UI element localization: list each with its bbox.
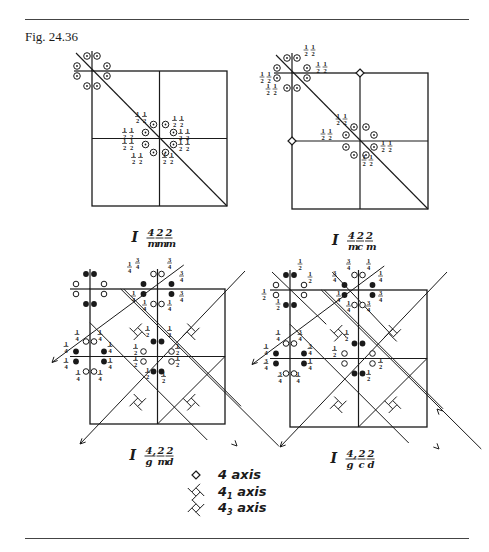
screw-diamond: [192, 504, 200, 512]
circle-center-dot: [153, 124, 155, 126]
fraction-denominator: 2: [276, 304, 279, 311]
height-fraction: 12: [273, 82, 278, 96]
lattice-letter: I: [131, 229, 139, 245]
equipoint-circle-dot: [294, 55, 301, 62]
fraction-numerator: 1: [323, 60, 326, 67]
space-group-symbol: I4m2c2m: [331, 230, 377, 252]
equipoint-open-circle: [159, 271, 165, 277]
fraction-denominator: 4: [180, 296, 184, 303]
equipoint-open-circle: [91, 369, 97, 375]
screw-tail: [330, 329, 334, 333]
fraction-numerator: 1: [321, 127, 324, 134]
height-fraction: 12: [138, 151, 143, 165]
fraction-denominator: 2: [134, 361, 137, 368]
screw-diamond: [134, 398, 142, 406]
equipoint-open-circle: [159, 301, 165, 307]
circle-center-dot: [86, 85, 88, 87]
fraction-denominator: 2: [273, 89, 276, 96]
fraction-denominator: 4: [296, 377, 300, 384]
circle-center-dot: [353, 154, 355, 156]
fraction-numerator: 1: [369, 153, 372, 160]
fraction-numerator: 1: [136, 110, 139, 117]
screw-tail: [385, 333, 389, 337]
lattice-letter: I: [331, 232, 339, 248]
fraction-numerator: 1: [134, 354, 137, 361]
fraction-denominator: 4: [347, 306, 351, 313]
height-fraction: 12: [336, 112, 341, 126]
fraction-numerator: 1: [64, 340, 67, 347]
height-fraction: 14: [346, 299, 351, 313]
height-fraction: 12: [179, 114, 184, 128]
screw-tail: [191, 394, 195, 398]
diagonal-glide-line: [280, 272, 447, 447]
circle-center-dot: [365, 126, 367, 128]
equipoint-open-circle: [370, 361, 376, 367]
diagonal-mirror-line: [276, 55, 428, 209]
fraction-numerator: 1: [316, 60, 319, 67]
fraction-numerator: 1: [260, 70, 263, 77]
equipoint-open-circle: [352, 272, 358, 278]
fraction-denominator: 4: [308, 349, 312, 356]
circle-center-dot: [306, 67, 308, 69]
diagonal-glide-line: [121, 289, 279, 446]
fraction-denominator: 2: [388, 146, 391, 153]
screw-diamond: [334, 401, 342, 409]
fraction-numerator: 1: [176, 354, 179, 361]
fraction-numerator: 1: [343, 112, 346, 119]
height-fraction: 14: [142, 298, 147, 312]
equipoint-circle-dot: [84, 83, 91, 90]
screw-tail: [192, 500, 196, 504]
equipoint-filled-circle: [101, 349, 107, 355]
fraction-denominator: 4: [264, 364, 268, 371]
equipoint-circle-dot: [351, 152, 358, 159]
circle-center-dot: [373, 134, 375, 136]
fraction-denominator: 4: [108, 363, 112, 370]
fraction-numerator: 1: [347, 299, 350, 306]
symbol-denominator: g: [146, 456, 153, 467]
height-fraction: 12: [135, 110, 140, 124]
symbol-denominator: c: [357, 241, 363, 252]
screw-tail: [385, 401, 389, 405]
fraction-numerator: 1: [333, 344, 336, 351]
height-fraction: 14: [108, 356, 113, 370]
equipoint-open-circle: [83, 369, 89, 375]
fraction-denominator: 4: [333, 276, 337, 283]
fraction-denominator: 2: [311, 50, 314, 57]
equipoint-open-circle: [101, 281, 107, 287]
four-fold-screw-3-icon: [385, 325, 401, 341]
fraction-denominator: 2: [381, 146, 384, 153]
fraction-denominator: 2: [304, 50, 307, 57]
height-fraction: 12: [175, 354, 180, 368]
fraction-numerator: 1: [98, 368, 101, 375]
height-fraction: 12: [142, 110, 147, 124]
circle-center-dot: [286, 87, 288, 89]
fraction-numerator: 1: [298, 257, 301, 264]
screw-tail: [393, 337, 397, 341]
fraction-denominator: 2: [369, 160, 372, 167]
equipoint-open-circle: [283, 371, 289, 377]
equipoint-circle-dot: [304, 75, 311, 82]
circle-center-dot: [153, 152, 155, 154]
fraction-numerator: 1: [276, 297, 279, 304]
equipoint-open-circle: [169, 349, 175, 355]
fraction-numerator: 1: [123, 137, 126, 144]
equipoint-filled-circle: [283, 272, 289, 278]
circle-center-dot: [345, 134, 347, 136]
circle-center-dot: [296, 57, 298, 59]
equipoint-filled-circle: [273, 351, 279, 357]
equipoint-open-circle: [73, 291, 79, 297]
height-fraction: 12: [344, 328, 349, 342]
fraction-denominator: 4: [98, 375, 102, 382]
fraction-denominator: 2: [179, 145, 182, 152]
fraction-numerator: 1: [264, 342, 267, 349]
equipoint-circle-dot: [142, 129, 149, 136]
fraction-numerator: 1: [262, 287, 265, 294]
symbol-numerator: 2: [156, 227, 164, 238]
equipoint-filled-circle: [283, 302, 289, 308]
height-fraction: 14: [98, 368, 103, 382]
fraction-denominator: 4: [98, 335, 102, 342]
fraction-numerator: 1: [179, 138, 182, 145]
diagonal-glide-line: [252, 266, 384, 365]
equipoint-filled-circle: [370, 282, 376, 288]
equipoint-filled-circle: [352, 371, 358, 377]
